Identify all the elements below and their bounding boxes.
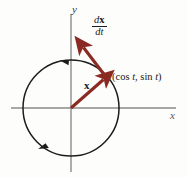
figure-container: y x (cos t, sin t) x dx dt xyxy=(0,0,187,178)
position-vector-label: x xyxy=(84,80,90,91)
derivative-numerator-x: x xyxy=(99,14,104,25)
derivative-label: dx dt xyxy=(92,15,107,37)
point-sin: sin xyxy=(140,71,155,82)
derivative-numerator: dx xyxy=(92,15,107,26)
point-coordinates-label: (cos t, sin t) xyxy=(112,72,162,83)
arc-direction-arrow-top xyxy=(59,60,69,65)
point-close-paren: ) xyxy=(158,71,162,82)
point-cos: cos xyxy=(116,71,133,82)
x-axis-label: x xyxy=(170,110,175,121)
derivative-denominator-t: t xyxy=(100,26,103,37)
derivative-denominator: dt xyxy=(92,27,107,38)
y-axis-label: y xyxy=(72,4,77,15)
